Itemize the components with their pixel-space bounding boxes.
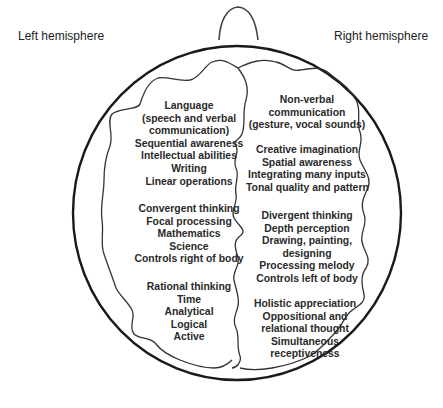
right-group-divergent: Divergent thinking Depth perception Draw…	[246, 210, 368, 286]
left-group-convergent: Convergent thinking Focal processing Mat…	[130, 203, 248, 266]
text-line: Divergent thinking	[246, 210, 368, 223]
right-hemisphere-label: Right hemisphere	[334, 29, 428, 43]
text-line: communication)	[130, 125, 248, 138]
text-line: Logical	[130, 319, 248, 332]
text-line: Spatial awareness	[246, 157, 368, 170]
text-line: Intellectual abilities	[130, 150, 248, 163]
text-line: Holistic appreciation	[246, 298, 364, 311]
text-line: Integrating many inputs	[246, 169, 368, 182]
text-line: Linear operations	[130, 176, 248, 189]
right-group-holistic: Holistic appreciation Oppositional and r…	[246, 298, 364, 361]
text-line: Language	[130, 100, 248, 113]
text-line: communication	[246, 107, 368, 120]
text-line: Creative imagination	[246, 144, 368, 157]
text-line: Controls left of body	[246, 273, 368, 286]
text-line: Active	[130, 331, 248, 344]
text-line: Time	[130, 294, 248, 307]
text-line: Drawing, painting,	[246, 235, 368, 248]
left-group-rational: Rational thinking Time Analytical Logica…	[130, 281, 248, 344]
brain-hemisphere-diagram: Left hemisphere Right hemisphere Languag…	[0, 0, 443, 408]
text-line: Science	[130, 241, 248, 254]
text-line: Tonal quality and pattern	[246, 182, 368, 195]
text-line: Controls right of body	[130, 253, 248, 266]
text-line: Depth perception	[246, 223, 368, 236]
text-line: Analytical	[130, 306, 248, 319]
nose-shape	[219, 7, 258, 40]
text-line: Writing	[130, 163, 248, 176]
text-line: (gesture, vocal sounds)	[246, 119, 368, 132]
text-line: Non-verbal	[246, 94, 368, 107]
text-line: Sequential awareness	[130, 138, 248, 151]
text-line: relational thought	[246, 323, 364, 336]
left-hemisphere-label: Left hemisphere	[18, 29, 104, 43]
text-line: Rational thinking	[130, 281, 248, 294]
text-line: Processing melody	[246, 260, 368, 273]
left-group-language: Language (speech and verbal communicatio…	[130, 100, 248, 188]
text-line: receptiveness	[246, 348, 364, 361]
text-line: Focal processing	[130, 216, 248, 229]
text-line: Oppositional and	[246, 311, 364, 324]
text-line: (speech and verbal	[130, 113, 248, 126]
text-line: Convergent thinking	[130, 203, 248, 216]
right-group-creative: Creative imagination Spatial awareness I…	[246, 144, 368, 194]
text-line: Simultaneous	[246, 336, 364, 349]
text-line: designing	[246, 248, 368, 261]
right-group-nonverbal: Non-verbal communication (gesture, vocal…	[246, 94, 368, 132]
text-line: Mathematics	[130, 228, 248, 241]
